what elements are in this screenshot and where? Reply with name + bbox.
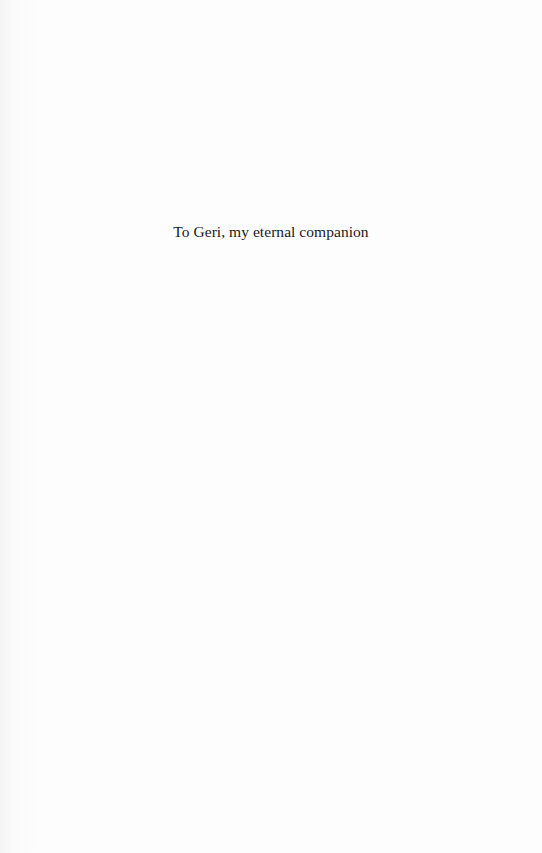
dedication-text: To Geri, my eternal companion (0, 222, 542, 242)
book-page: To Geri, my eternal companion (0, 0, 542, 853)
